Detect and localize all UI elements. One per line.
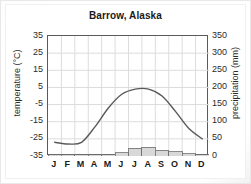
- right-tick-label: 100: [212, 116, 227, 125]
- right-axis-ticks: 350300250200150100500: [212, 35, 240, 155]
- month-label: J: [118, 159, 123, 170]
- month-axis-labels: JFMAMJJASOND: [47, 159, 208, 173]
- right-tick-label: 250: [212, 65, 227, 74]
- right-tick-label: 350: [212, 31, 227, 40]
- chart-title: Barrow, Alaska: [0, 10, 251, 21]
- month-label: A: [144, 159, 151, 170]
- month-label: D: [198, 159, 205, 170]
- month-label: N: [185, 159, 192, 170]
- left-tick-label: -35: [10, 151, 43, 160]
- plot-area: [47, 35, 208, 155]
- left-tick-label: -15: [10, 116, 43, 125]
- left-tick-label: 25: [10, 48, 43, 57]
- month-label: M: [77, 159, 85, 170]
- right-tick-label: 200: [212, 82, 227, 91]
- month-label: S: [158, 159, 164, 170]
- month-label: A: [91, 159, 98, 170]
- right-tick-label: 150: [212, 99, 227, 108]
- plot-graphics: [48, 36, 209, 156]
- right-tick-label: 50: [212, 133, 222, 142]
- right-tick-label: 300: [212, 48, 227, 57]
- climograph-figure: Barrow, Alaska temperature (°C) precipit…: [0, 0, 251, 184]
- left-axis-ticks: 3525155-5-15-25-35: [10, 35, 43, 155]
- month-label: O: [171, 159, 178, 170]
- gridlines: [48, 36, 209, 156]
- left-tick-label: 15: [10, 65, 43, 74]
- left-tick-label: -25: [10, 133, 43, 142]
- left-tick-label: 5: [10, 82, 43, 91]
- right-tick-label: 0: [212, 151, 217, 160]
- precipitation-bars: [48, 147, 209, 156]
- month-label: J: [51, 159, 56, 170]
- left-tick-label: 35: [10, 31, 43, 40]
- left-tick-label: -5: [10, 99, 43, 108]
- month-label: M: [104, 159, 112, 170]
- month-label: J: [132, 159, 137, 170]
- month-label: F: [64, 159, 70, 170]
